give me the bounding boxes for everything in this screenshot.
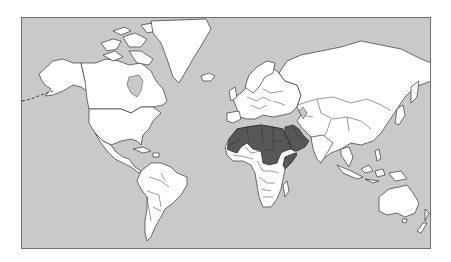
iberia bbox=[227, 111, 241, 123]
hispaniola bbox=[153, 153, 159, 157]
iceland bbox=[201, 73, 215, 81]
southeast-asia bbox=[341, 147, 353, 167]
indonesia bbox=[337, 165, 407, 183]
canada bbox=[81, 59, 167, 113]
new-zealand bbox=[417, 209, 429, 233]
philippines bbox=[375, 149, 381, 161]
world-map-frame bbox=[21, 17, 431, 249]
arctic-islands bbox=[101, 23, 157, 65]
dateline-dash bbox=[22, 91, 53, 101]
tasmania bbox=[402, 219, 407, 223]
cuba bbox=[133, 147, 151, 153]
greenland bbox=[151, 19, 211, 83]
madagascar bbox=[283, 181, 289, 197]
australia bbox=[379, 185, 419, 217]
world-map bbox=[22, 18, 431, 249]
